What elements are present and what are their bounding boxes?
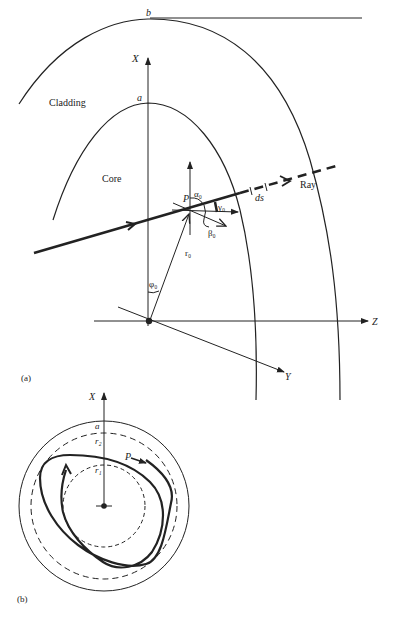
gamma-arc — [215, 202, 217, 212]
center-dot — [101, 503, 107, 509]
label-b: b — [146, 7, 151, 18]
label-cladding: Cladding — [49, 97, 86, 108]
label-phi: φ₀ — [149, 279, 157, 289]
y-axis — [118, 307, 284, 372]
skew-ray-path — [40, 455, 172, 567]
panel-a: b X Cladding a Core P α₀ γ₀ β₀ r₀ φ₀ ds … — [19, 7, 378, 400]
r0-vector — [150, 214, 189, 320]
ds-tick-1 — [250, 187, 252, 195]
skew-ray-arrow-start — [62, 465, 71, 475]
panel-b-tag: (b) — [17, 594, 28, 604]
ds-tick-2 — [265, 183, 267, 191]
label-alpha: α₀ — [194, 189, 202, 199]
b-label-p: P — [124, 451, 131, 462]
b-label-a: a — [95, 421, 100, 431]
b-label-r2: r₂ — [95, 436, 102, 446]
panel-a-tag: (a) — [21, 373, 31, 383]
b-label-r1: r₁ — [95, 465, 102, 475]
label-z-axis: Z — [372, 316, 378, 327]
label-r0: r₀ — [185, 248, 191, 258]
label-x-axis: X — [131, 52, 140, 64]
b-label-x-axis: X — [88, 391, 96, 402]
ray-solid — [34, 193, 240, 253]
label-gamma: γ₀ — [217, 202, 225, 212]
phi-arc — [148, 291, 159, 293]
fiber-ray-diagram: b X Cladding a Core P α₀ γ₀ β₀ r₀ φ₀ ds … — [0, 0, 394, 617]
beta-arc — [204, 205, 209, 227]
skew-ray-arrow-p — [131, 458, 146, 463]
label-ds: ds — [255, 192, 264, 203]
label-p: P — [182, 193, 189, 204]
origin-dot — [146, 318, 152, 324]
panel-b: X a r₂ r₁ P (b) — [17, 391, 189, 604]
label-y-axis: Y — [285, 371, 292, 382]
label-core: Core — [102, 173, 122, 184]
label-beta: β₀ — [208, 228, 216, 238]
label-ray: Ray — [300, 179, 316, 190]
core-boundary — [53, 103, 256, 400]
label-a: a — [137, 92, 142, 103]
